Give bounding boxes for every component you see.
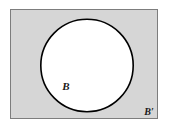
venn-diagram-figure: B B′: [0, 0, 169, 129]
label-set-b: B: [61, 80, 69, 92]
venn-diagram-canvas: B B′: [0, 0, 169, 129]
label-set-b-complement: B′: [143, 106, 154, 117]
set-b-circle: [41, 19, 133, 111]
